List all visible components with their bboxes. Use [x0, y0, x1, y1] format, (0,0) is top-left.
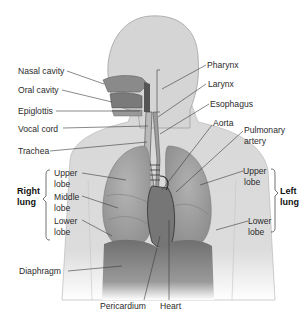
left-lung-brace	[271, 169, 278, 232]
label-left-lung: lung	[280, 197, 299, 207]
right-lung-brace	[43, 170, 50, 240]
label-right-upper-lobe: lobe	[54, 179, 70, 189]
label-left-lower: Lower	[248, 216, 271, 226]
label-right-middle-lobe: lobe	[54, 203, 70, 213]
label-esophagus: Esophagus	[210, 99, 253, 109]
label-pulmonary: Pulmonary	[244, 125, 285, 135]
label-left-lower-lobe: lobe	[248, 227, 264, 237]
label-right-middle: Middle	[54, 192, 79, 202]
label-right-lower: Lower	[54, 216, 77, 226]
label-epiglottis: Epiglottis	[18, 106, 53, 116]
label-nasal-cavity: Nasal cavity	[18, 66, 64, 76]
label-larynx: Larynx	[208, 79, 234, 89]
label-aorta: Aorta	[213, 118, 234, 128]
label-pericardium: Pericardium	[100, 301, 146, 311]
label-oral-cavity: Oral cavity	[18, 85, 59, 95]
label-diaphragm: Diaphragm	[19, 266, 61, 276]
label-right: Right	[17, 186, 40, 196]
label-right-lung: lung	[17, 197, 36, 207]
label-left-upper: Upper	[243, 166, 266, 176]
label-trachea: Trachea	[18, 146, 49, 156]
label-left-upper-lobe: lobe	[244, 177, 260, 187]
label-right-upper: Upper	[54, 168, 77, 178]
label-right-lower-lobe: lobe	[54, 227, 70, 237]
label-artery: artery	[244, 136, 266, 146]
label-left: Left	[280, 186, 297, 196]
diaphragm	[102, 240, 214, 300]
label-vocal-cord: Vocal cord	[18, 124, 58, 134]
respiratory-system-diagram: Nasal cavity Oral cavity Epiglottis Voca…	[0, 0, 308, 315]
label-heart: Heart	[160, 301, 181, 311]
label-pharynx: Pharynx	[207, 60, 239, 70]
